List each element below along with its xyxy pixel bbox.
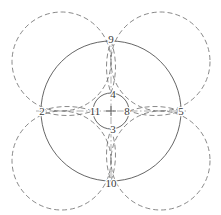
label-10: 10	[106, 177, 118, 189]
point-labels-group: 9 10 2 5 4 3 11 8	[39, 33, 184, 189]
label-9: 9	[108, 33, 114, 45]
geometric-figure-canvas: 9 10 2 5 4 3 11 8	[0, 0, 221, 215]
label-2: 2	[39, 105, 45, 117]
label-5: 5	[178, 105, 184, 117]
figure-svg: 9 10 2 5 4 3 11 8	[0, 0, 221, 215]
label-8: 8	[124, 105, 130, 117]
label-11: 11	[90, 105, 101, 117]
label-4: 4	[110, 88, 116, 100]
label-3: 3	[110, 123, 116, 135]
center-cross-marker	[106, 106, 116, 116]
